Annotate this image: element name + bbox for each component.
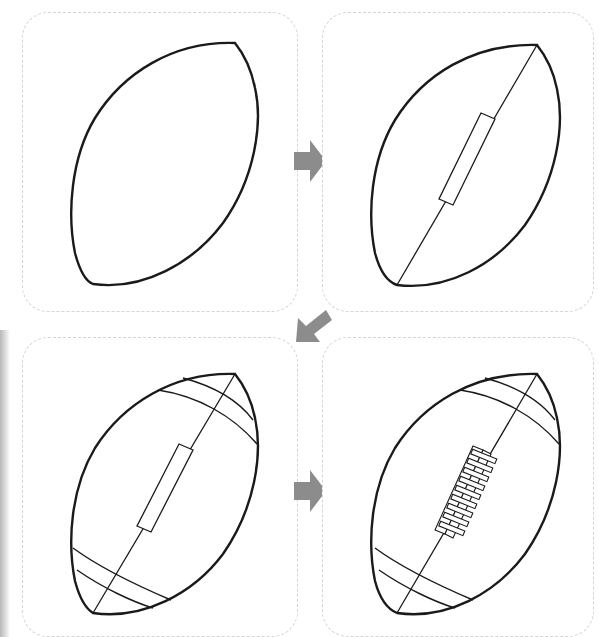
football-outline-icon (23, 13, 299, 313)
football-stripes-icon (23, 338, 299, 637)
football-complete-icon (323, 338, 595, 637)
football-seam-icon (323, 13, 595, 313)
page-edge-shadow (0, 330, 10, 637)
step-2-panel (322, 12, 594, 312)
laces-icon (435, 446, 497, 538)
step-4-panel (322, 337, 594, 637)
step-3-panel (22, 337, 298, 637)
step-1-panel (22, 12, 298, 312)
